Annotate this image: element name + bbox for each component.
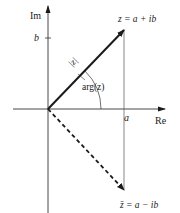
z-label: z = a + ib	[117, 14, 156, 24]
complex-plane-diagram: Im Re b a z = a + ib z̄ = a − ib |z| arg…	[0, 0, 180, 213]
z-conjugate-label: z̄ = a − ib	[119, 200, 158, 210]
z-conjugate-vector	[48, 109, 124, 190]
real-tick-label: a	[124, 112, 129, 123]
imag-tick-label: b	[34, 32, 39, 43]
imag-axis-label: Im	[30, 10, 41, 21]
real-axis-label: Re	[155, 115, 167, 126]
argument-label: arg(z)	[82, 82, 105, 93]
modulus-label: |z|	[66, 55, 79, 68]
z-vector	[48, 30, 124, 109]
